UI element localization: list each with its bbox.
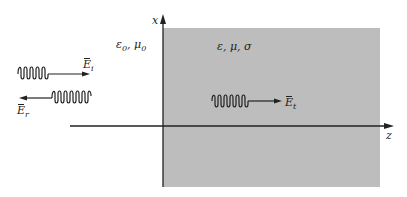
diagram-lines <box>0 0 407 197</box>
medium-label: ε, μ, σ <box>217 40 252 53</box>
transmitted-wave <box>212 95 282 107</box>
incident-field-label: Ei <box>83 58 94 73</box>
x-axis <box>160 14 166 187</box>
z-axis-label: z <box>386 129 392 142</box>
incident-wave <box>18 67 90 79</box>
transmitted-field-label: Et <box>285 96 296 111</box>
z-axis <box>70 123 394 129</box>
free-space-label: ε0, μ0 <box>116 38 146 53</box>
reflected-wave <box>19 91 91 103</box>
reflected-field-label: Er <box>17 104 29 119</box>
x-axis-label: x <box>152 14 158 27</box>
